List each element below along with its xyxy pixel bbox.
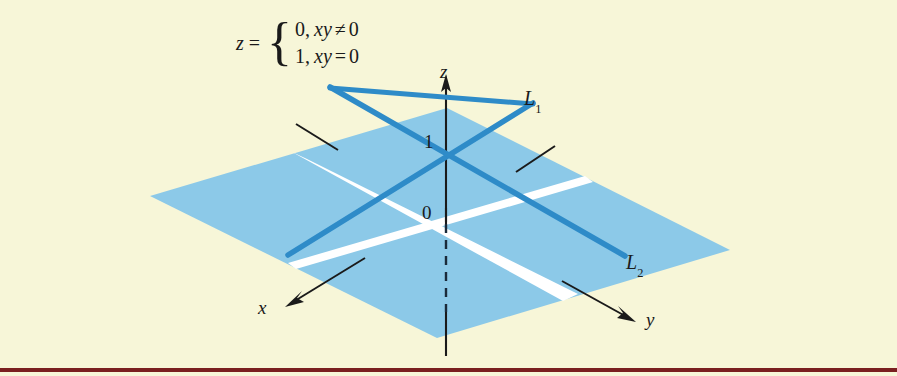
line-L1-subscript: 1 xyxy=(535,102,541,116)
case-1-operator: ≠ xyxy=(335,18,346,40)
z-value-one-label: 1 xyxy=(424,132,434,151)
case-1-value: 0, xyxy=(295,18,310,40)
formula-lhs: z xyxy=(236,32,244,55)
x-axis-label: x xyxy=(258,298,266,317)
case-2-value: 1, xyxy=(295,45,310,67)
formula-equals: = xyxy=(249,32,260,55)
line-L2-letter: L xyxy=(626,251,637,273)
case-2-rhs: 0 xyxy=(349,45,359,67)
page-bottom-rule xyxy=(0,368,897,372)
formula-case-1: 0,xy≠0 xyxy=(295,18,359,41)
line-L1-letter: L xyxy=(524,87,535,109)
line-L2-label: L2 xyxy=(626,252,643,276)
z-axis-label: z xyxy=(440,62,447,81)
formula-brace: { xyxy=(267,21,292,64)
formula-case-2: 1,xy=0 xyxy=(295,45,359,68)
case-1-rhs: 0 xyxy=(349,18,359,40)
x-axis-arrowhead xyxy=(285,291,304,307)
y-axis-label: y xyxy=(646,310,654,329)
line-L2-subscript: 2 xyxy=(637,266,643,280)
piecewise-formula: z = { 0,xy≠0 1,xy=0 xyxy=(236,18,359,68)
line-L1-label: L1 xyxy=(524,88,541,112)
case-2-operator: = xyxy=(335,45,346,67)
origin-label: 0 xyxy=(422,203,432,222)
case-1-expression: xy xyxy=(314,18,332,40)
surface-diagram xyxy=(0,0,897,376)
case-2-expression: xy xyxy=(314,45,332,67)
leader-line-left xyxy=(296,124,338,150)
